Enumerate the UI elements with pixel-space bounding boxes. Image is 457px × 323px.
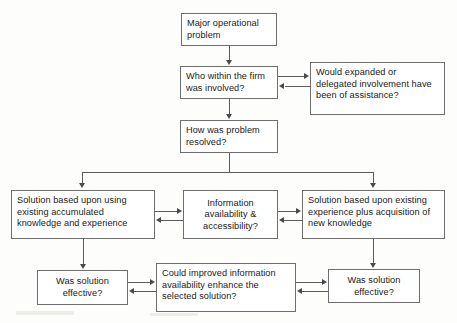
node-major-problem: Major operational problem <box>181 13 277 46</box>
edge-fork-right-arrow <box>370 183 376 188</box>
edge-who-to-would-arrow <box>304 73 309 79</box>
node-information-access: Information availability & accessibility… <box>183 190 278 239</box>
edge-fork-horizontal-bar <box>82 172 373 173</box>
edge-how-to-fork-stem <box>229 153 230 172</box>
edge-who-to-would-line <box>278 76 305 77</box>
node-how-resolved: How was problem resolved? <box>180 120 278 153</box>
node-solution-acquisition: Solution based upon existing experience … <box>302 190 445 239</box>
edge-could-to-effective-arrow <box>129 288 134 294</box>
edge-right-to-could-line <box>302 291 328 292</box>
edge-info-to-right-line <box>278 211 297 212</box>
scan-artifact-left <box>16 311 74 315</box>
edge-effective-to-could-line <box>128 282 151 283</box>
node-was-effective-left: Was solution effective? <box>37 270 128 305</box>
edge-who-to-how-arrow <box>226 114 232 119</box>
edge-right-to-could-arrow <box>297 288 302 294</box>
edge-could-to-right-line <box>296 282 323 283</box>
edge-info-to-right-arrow <box>296 208 301 214</box>
node-could-improved: Could improved information availability … <box>156 263 296 312</box>
edge-who-to-how-line <box>229 99 230 114</box>
edge-could-to-right-arrow <box>322 279 327 285</box>
edge-right-to-effective-arrow <box>370 263 376 268</box>
edge-info-to-left-line <box>161 220 183 221</box>
edge-effective-to-could-arrow <box>150 279 155 285</box>
scan-artifact-right <box>150 313 198 316</box>
edge-left-to-effective-line <box>83 239 84 264</box>
flowchart-canvas: Major operational problem Who within the… <box>0 0 457 323</box>
node-who-involved: Who within the firm was involved? <box>180 66 278 99</box>
edge-fork-left-arrow <box>79 183 85 188</box>
edge-would-to-who-arrow <box>279 83 284 89</box>
edge-info-to-left-arrow <box>156 217 161 223</box>
edge-right-to-effective-line <box>373 239 374 264</box>
edge-major-to-who-line <box>229 46 230 61</box>
edge-right-to-info-arrow <box>279 217 284 223</box>
edge-left-to-info-arrow <box>177 208 182 214</box>
node-would-expanded: Would expanded or delegated involvement … <box>310 62 445 115</box>
edge-major-to-who-arrow <box>226 60 232 65</box>
edge-would-to-who-line <box>285 86 310 87</box>
node-was-effective-right: Was solution effective? <box>328 269 420 303</box>
edge-left-to-effective-arrow <box>80 264 86 269</box>
edge-could-to-effective-line <box>134 291 156 292</box>
node-solution-existing: Solution based upon using existing accum… <box>11 190 155 239</box>
edge-right-to-info-line <box>284 220 302 221</box>
edge-left-to-info-line <box>155 211 178 212</box>
